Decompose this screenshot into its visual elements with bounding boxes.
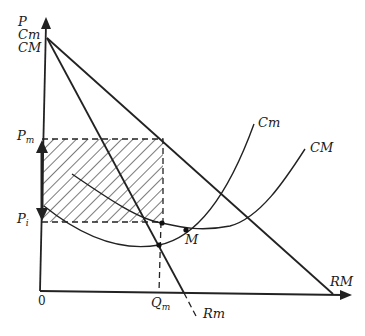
pi-label: Pi [16,211,29,228]
point-m-label: M [184,232,199,247]
point-qm-intersection [156,242,161,247]
qm-dashed-line [159,222,161,292]
cm-average-cost-label: CM [310,140,334,155]
cm-marginal-cost-label: Cm [258,115,280,130]
rm-marginal-revenue-label: Rm [202,306,225,321]
y-axis-label-cm-average: CM [18,40,42,55]
x-axis [40,291,343,295]
pm-label: Pm [16,128,34,145]
point-pi-intersection [159,220,164,225]
qm-label: Qm [151,295,170,312]
rm-average-revenue-label: RM [329,274,354,289]
y-axis-arrow [41,17,51,29]
profit-area [42,139,163,222]
monopoly-diagram: P Cm CM Pm Pi 0 Qm M Cm CM RM Rm [0,0,365,336]
rm-marginal-revenue-extension [184,293,197,318]
origin-label: 0 [38,294,46,308]
x-axis-arrow [340,290,352,300]
